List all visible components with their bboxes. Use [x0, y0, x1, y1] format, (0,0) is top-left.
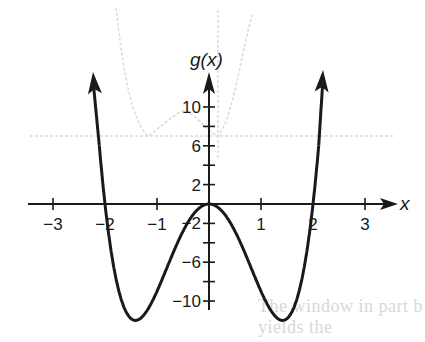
- y-axis-title: g(x): [190, 49, 223, 70]
- y-tick-label: −6: [182, 253, 201, 272]
- x-axis-title: x: [399, 193, 411, 214]
- x-tick-label: −2: [95, 215, 114, 234]
- x-tick-label: −1: [147, 215, 166, 234]
- function-graph: −3−2−11231062−2−6−10 g(x) x: [0, 0, 425, 342]
- x-tick-label: 1: [256, 215, 265, 234]
- y-tick-label: 6: [192, 137, 201, 156]
- y-tick-label: 10: [182, 98, 201, 117]
- x-tick-label: 3: [360, 215, 369, 234]
- x-tick-label: −3: [43, 215, 62, 234]
- ghost-graph: [30, 8, 395, 160]
- y-tick-label: −10: [172, 292, 201, 311]
- y-tick-label: 2: [192, 176, 201, 195]
